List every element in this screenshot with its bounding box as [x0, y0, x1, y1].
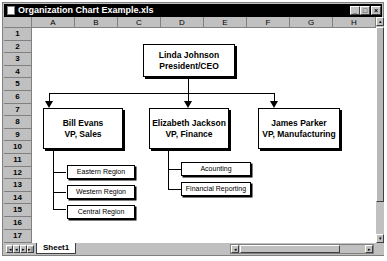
connector-to-finance: [188, 93, 189, 101]
arrow-down-icon: [270, 101, 278, 108]
minimize-button[interactable]: _: [350, 6, 360, 15]
row-header-15[interactable]: 15: [4, 204, 32, 217]
row-header-12[interactable]: 12: [4, 167, 32, 180]
row-header-9[interactable]: 9: [4, 129, 32, 142]
vp-manufacturing-name: James Parker: [259, 118, 339, 129]
arrow-down-icon: [45, 101, 53, 108]
prev-sheet-button[interactable]: ◂: [13, 245, 20, 253]
window-title: Organization Chart Example.xls: [18, 4, 154, 17]
select-all-corner[interactable]: [4, 17, 32, 28]
column-header-g[interactable]: G: [290, 17, 333, 28]
column-header-b[interactable]: B: [75, 17, 118, 28]
connector-sales-eastern: [53, 172, 66, 173]
org-box-accounting[interactable]: Acounting: [181, 162, 251, 176]
connector-sales-western: [53, 192, 66, 193]
row-header-13[interactable]: 13: [4, 179, 32, 192]
connector-ceo-down: [188, 79, 189, 93]
vertical-scrollbar[interactable]: ▴ ▾: [376, 17, 384, 243]
vp-finance-name: Elizabeth Jackson: [150, 118, 228, 129]
row-header-8[interactable]: 8: [4, 116, 32, 129]
maximize-button[interactable]: □: [360, 6, 370, 15]
connector-to-sales: [49, 93, 50, 101]
row-header-6[interactable]: 6: [4, 91, 32, 104]
sheet-tab-sheet1[interactable]: Sheet1: [36, 243, 76, 254]
row-header-5[interactable]: 5: [4, 78, 32, 91]
connector-to-manufacturing: [274, 93, 275, 101]
org-box-ceo[interactable]: Linda Johnson President/CEO: [143, 44, 235, 77]
scroll-left-button[interactable]: ◂: [231, 245, 239, 253]
scroll-up-button[interactable]: ▴: [376, 17, 384, 26]
org-box-eastern-region[interactable]: Eastern Region: [67, 165, 135, 179]
ceo-name: Linda Johnson: [144, 50, 234, 61]
row-header-1[interactable]: 1: [4, 28, 32, 41]
excel-window: Organization Chart Example.xls _ □ × A B…: [2, 2, 384, 256]
row-header-16[interactable]: 16: [4, 217, 32, 230]
row-header-7[interactable]: 7: [4, 104, 32, 117]
ceo-title: President/CEO: [144, 61, 234, 72]
column-header-e[interactable]: E: [204, 17, 247, 28]
connector-sales-central: [53, 209, 66, 210]
column-header-c[interactable]: C: [118, 17, 161, 28]
row-header-10[interactable]: 10: [4, 141, 32, 154]
column-header-f[interactable]: F: [247, 17, 290, 28]
vp-sales-name: Bill Evans: [44, 118, 122, 129]
connector-horizontal: [49, 93, 275, 94]
org-box-financial-reporting[interactable]: Financial Reporting: [181, 182, 251, 196]
row-header-3[interactable]: 3: [4, 53, 32, 66]
title-bar: Organization Chart Example.xls _ □ ×: [4, 4, 382, 17]
excel-document-icon[interactable]: [7, 6, 15, 15]
vp-sales-title: VP, Sales: [44, 129, 122, 140]
first-sheet-button[interactable]: |◂: [6, 245, 13, 253]
vp-finance-title: VP, Finance: [150, 129, 228, 140]
next-sheet-button[interactable]: ▸: [20, 245, 27, 253]
scroll-right-button[interactable]: ▸: [365, 245, 373, 253]
column-header-d[interactable]: D: [161, 17, 204, 28]
vertical-scroll-thumb[interactable]: [376, 27, 384, 202]
row-header-4[interactable]: 4: [4, 66, 32, 79]
scroll-down-button[interactable]: ▾: [376, 234, 384, 243]
vp-manufacturing-title: VP, Manufacturing: [259, 129, 339, 140]
org-box-central-region[interactable]: Central Region: [67, 205, 135, 219]
last-sheet-button[interactable]: ▸|: [27, 245, 34, 253]
close-button[interactable]: ×: [371, 6, 381, 15]
resize-grip-icon[interactable]: [376, 244, 384, 254]
row-header-17[interactable]: 17: [4, 230, 32, 243]
sheet-tab-bar: |◂ ◂ ▸ ▸| Sheet1 ◂ ▸: [4, 243, 384, 255]
row-header-2[interactable]: 2: [4, 41, 32, 54]
row-header-14[interactable]: 14: [4, 192, 32, 205]
horizontal-scrollbar[interactable]: ◂ ▸: [230, 244, 374, 254]
arrow-down-icon: [184, 101, 192, 108]
row-header-11[interactable]: 11: [4, 154, 32, 167]
column-header-h[interactable]: H: [333, 17, 376, 28]
connector-finance-accounting: [168, 169, 181, 170]
org-box-western-region[interactable]: Western Region: [67, 185, 135, 199]
connector-sales-trunk: [53, 149, 54, 209]
connector-finance-reporting: [168, 189, 181, 190]
org-box-vp-sales[interactable]: Bill Evans VP, Sales: [43, 108, 123, 149]
horizontal-scroll-thumb[interactable]: [240, 245, 340, 253]
column-header-a[interactable]: A: [32, 17, 75, 28]
org-box-vp-finance[interactable]: Elizabeth Jackson VP, Finance: [149, 108, 229, 149]
org-box-vp-manufacturing[interactable]: James Parker VP, Manufacturing: [258, 108, 340, 149]
worksheet-grid[interactable]: A B C D E F G H 1 2 3 4 5 6 7 8 9 10 11 …: [4, 17, 376, 243]
